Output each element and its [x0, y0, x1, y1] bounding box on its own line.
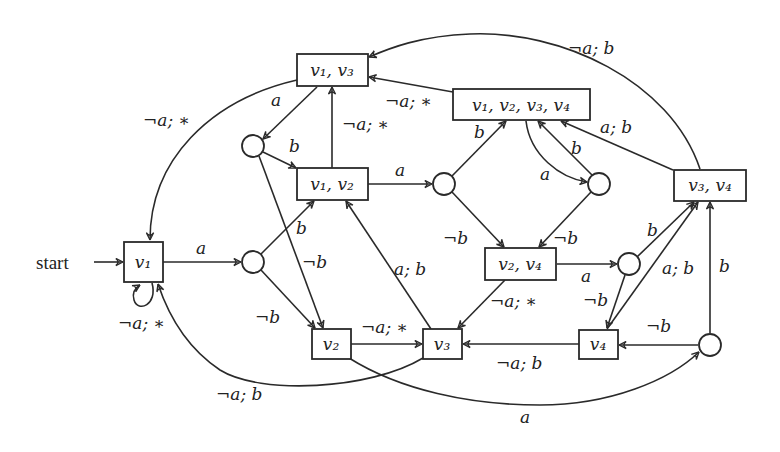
label-cb-b: b	[289, 136, 300, 156]
label-cr-b: b	[571, 138, 582, 158]
node-v2-label: v₂	[323, 334, 340, 354]
label-v13-a: a	[271, 90, 281, 110]
node-v1v2-label: v₁, v₂	[310, 174, 354, 194]
label-v12-a: a	[395, 160, 405, 180]
node-v2v4[interactable]: v₂, v₄	[485, 248, 556, 280]
intermediate-node-v1-a[interactable]	[242, 251, 264, 273]
edge-v1-self-loop	[133, 283, 153, 306]
edge-c24-v3v4	[637, 202, 694, 257]
label-cb-nb: ¬b	[302, 252, 327, 272]
label-v2-v3: ¬a; ∗	[361, 317, 408, 337]
label-c24-nb: ¬b	[583, 290, 608, 310]
node-v1[interactable]: v₁	[124, 242, 163, 282]
intermediate-node-v1v3-a[interactable]	[242, 135, 264, 157]
intermediate-node-v1v2-a[interactable]	[433, 173, 455, 195]
intermediate-node-v2v4-a[interactable]	[618, 253, 640, 275]
label-v24-a: a	[581, 266, 591, 286]
label-cbot-nb: ¬b	[646, 316, 671, 336]
node-v3v4-label: v₃, v₄	[688, 175, 732, 195]
node-v1v2v3v4[interactable]: v₁, v₂, v₃, v₄	[453, 89, 590, 120]
start-label: start	[36, 252, 69, 273]
label-v4-v3: ¬a; b	[496, 353, 542, 373]
label-v3-v1: ¬a; b	[216, 384, 262, 404]
label-v1-a: a	[196, 238, 206, 258]
intermediate-node-v1234-a[interactable]	[588, 173, 610, 195]
node-v4-label: v₄	[590, 334, 607, 354]
label-v13-v1: ¬a; ∗	[143, 110, 190, 130]
node-v3v4[interactable]: v₃, v₄	[674, 170, 746, 201]
node-v3-label: v₃	[434, 334, 451, 354]
label-v34-v1234: a; b	[600, 117, 632, 137]
node-v1-label: v₁	[135, 252, 151, 272]
node-v1v2v3v4-label: v₁, v₂, v₃, v₄	[472, 95, 570, 115]
label-ca-b: b	[296, 218, 307, 238]
label-v34-v13: ¬a; b	[568, 38, 614, 58]
label-v24-v3: ¬a; ∗	[490, 291, 537, 311]
intermediate-node-bottom[interactable]	[699, 334, 721, 356]
node-v1v3[interactable]: v₁, v₃	[297, 54, 368, 86]
label-v4-v34: a; b	[662, 258, 694, 278]
node-v1v3-label: v₁, v₃	[310, 60, 354, 80]
label-v12-v13: ¬a; ∗	[342, 114, 389, 134]
label-cab-b: b	[474, 122, 485, 142]
node-v1v2[interactable]: v₁, v₂	[297, 168, 368, 200]
nodes: v₁ v₂ v₃ v₄ v₁, v₂ v₁, v₃ v₁, v₂	[124, 54, 746, 359]
label-cbot-b: b	[719, 256, 730, 276]
automaton-diagram: v₁ v₂ v₃ v₄ v₁, v₂ v₁, v₃ v₁, v₂	[0, 0, 780, 452]
node-v2[interactable]: v₂	[312, 329, 351, 359]
label-ca-nb: ¬b	[255, 307, 280, 327]
label-v3-v12: a; b	[394, 259, 426, 279]
label-v1-self: ¬a; ∗	[118, 313, 165, 333]
node-v4[interactable]: v₄	[579, 330, 618, 359]
label-v2-cbot: a	[520, 407, 530, 427]
label-cab-nb: ¬b	[443, 228, 468, 248]
edge-v1234-v1v3	[369, 77, 453, 92]
label-c24-b: b	[647, 220, 658, 240]
node-v2v4-label: v₂, v₄	[498, 254, 542, 274]
label-cr-nb: ¬b	[553, 228, 578, 248]
edge-c24-v4	[607, 275, 625, 328]
label-v1234-v13: ¬a; ∗	[385, 91, 432, 111]
label-v1234-a: a	[540, 164, 550, 184]
edge-labels: start ¬a; ∗ a b ¬b ¬a; ∗ a b ¬b ¬a; ∗ a …	[36, 38, 730, 427]
node-v3[interactable]: v₃	[423, 329, 462, 359]
